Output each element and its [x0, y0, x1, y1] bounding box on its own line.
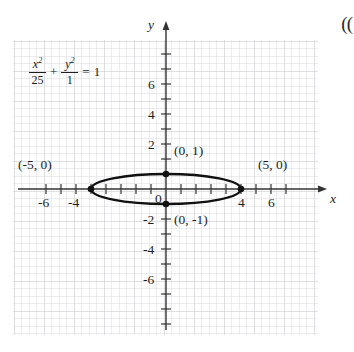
y-tick-label-neg4: -4: [143, 243, 154, 257]
equation-term-1-denominator: 25: [30, 73, 46, 87]
ellipse-graph-figure: (( x2 25 + y2 1 = 1 y x 0 -6 -4 4 6 6 4 …: [0, 0, 354, 352]
equation-equals-operator: =: [82, 64, 89, 80]
label-right-vertex: (5, 0): [258, 158, 287, 172]
y-tick-label-6: 6: [148, 78, 155, 92]
label-top-covertex: (0, 1): [174, 144, 203, 158]
y-tick-label-neg2: -2: [143, 213, 154, 227]
plot-canvas: [0, 0, 354, 352]
point-top-covertex: [163, 171, 170, 178]
equation-term-2-numerator: y2: [63, 57, 76, 72]
label-bottom-covertex: (0, -1): [174, 213, 208, 227]
y-tick-label-4: 4: [148, 108, 155, 122]
label-left-vertex: (-5, 0): [18, 158, 52, 172]
x-tick-label-neg6: -6: [38, 196, 49, 210]
y-tick-label-neg6: -6: [143, 273, 154, 287]
corner-paren-mark: ((: [341, 14, 352, 33]
y-axis-arrowhead: [163, 21, 170, 30]
equation-term-2-denominator: 1: [65, 73, 75, 87]
x-tick-label-4: 4: [238, 196, 245, 210]
equation-right-side: 1: [94, 64, 101, 80]
x-tick-label-neg4: -4: [68, 196, 79, 210]
equation-plus-operator: +: [50, 64, 57, 80]
point-left-vertex: [88, 186, 95, 193]
equation-term-1: x2 25: [29, 57, 46, 86]
ellipse-equation-annotation: x2 25 + y2 1 = 1: [29, 57, 100, 86]
x-axis-arrowhead: [318, 186, 327, 193]
point-bottom-covertex: [163, 201, 170, 208]
x-axis-label: x: [330, 192, 336, 206]
point-right-vertex: [238, 186, 245, 193]
equation-term-2: y2 1: [61, 57, 78, 86]
x-tick-label-6: 6: [268, 196, 275, 210]
origin-label: 0: [155, 192, 162, 206]
equation-term-1-numerator: x2: [31, 57, 44, 72]
y-axis-label: y: [148, 18, 154, 32]
y-tick-label-2: 2: [148, 138, 155, 152]
